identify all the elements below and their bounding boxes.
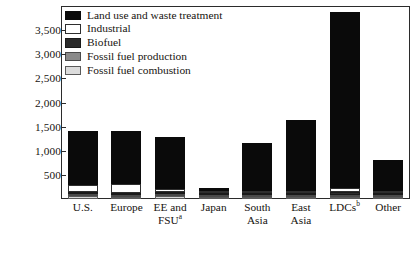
- bar-segment-ffcomb: [68, 196, 98, 199]
- x-axis-label: Other: [366, 201, 410, 214]
- fossil-fuel-combustion-swatch: [65, 66, 81, 75]
- bar-east-asia: [286, 120, 316, 199]
- legend-item-label: Biofuel: [87, 37, 121, 48]
- bar-segment-industrial: [111, 184, 141, 193]
- y-axis-tick-mark: [61, 54, 66, 55]
- bar-segment-land: [286, 120, 316, 191]
- legend-item: Land use and waste treatment: [65, 9, 222, 22]
- land-swatch: [65, 11, 81, 20]
- x-axis-labels: U.S.EuropeEE andFSUaJapanSouthAsiaEastAs…: [61, 201, 410, 253]
- bar-other: [373, 160, 403, 199]
- y-axis-tick-label: 3,500: [9, 25, 61, 36]
- bar-segment-land: [68, 131, 98, 185]
- x-axis-label: U.S.: [61, 201, 105, 214]
- biofuel-swatch: [65, 38, 81, 47]
- legend-item: Industrial: [65, 23, 222, 36]
- bar-segment-land: [155, 137, 185, 190]
- y-axis-tick-label: 1,500: [9, 121, 61, 132]
- bar-segment-land: [242, 143, 272, 191]
- bar-segment-ffcomb: [286, 197, 316, 199]
- y-axis-tick-mark: [61, 103, 66, 104]
- legend-item-label: Land use and waste treatment: [87, 10, 222, 21]
- x-axis-label: Europe: [105, 201, 149, 214]
- chart-legend: Land use and waste treatmentIndustrialBi…: [65, 9, 222, 77]
- bar-ee-and-fsu: [155, 137, 185, 199]
- y-axis-tick-label: 2,000: [9, 97, 61, 108]
- x-axis-label: EastAsia: [279, 201, 323, 228]
- y-axis-tick-mark: [61, 30, 66, 31]
- bar-segment-ffcomb: [111, 197, 141, 199]
- legend-item-label: Fossil fuel production: [87, 51, 187, 62]
- fossil-fuel-production-swatch: [65, 52, 81, 61]
- bar-japan: [199, 188, 229, 199]
- bar-segment-land: [111, 131, 141, 184]
- x-axis-label: EE andFSUa: [148, 201, 192, 228]
- x-axis-label: Japan: [192, 201, 236, 214]
- legend-item-label: Industrial: [87, 23, 131, 34]
- bar-ldcs: [330, 12, 360, 199]
- legend-item: Fossil fuel combustion: [65, 64, 222, 77]
- y-axis-tick-label: 3,000: [9, 49, 61, 60]
- y-axis-tick-mark: [61, 151, 66, 152]
- legend-item: Fossil fuel production: [65, 50, 222, 63]
- bar-segment-industrial: [68, 185, 98, 192]
- y-axis-tick-mark: [61, 175, 66, 176]
- bar-south-asia: [242, 143, 272, 199]
- stacked-bar-chart: 5001,0001,5002,0002,5003,0003,500 U.S.Eu…: [0, 0, 418, 253]
- bar-segment-land: [373, 160, 403, 191]
- bar-segment-land: [330, 12, 360, 188]
- x-axis-label: LDCsb: [323, 201, 367, 214]
- y-axis-tick-mark: [61, 127, 66, 128]
- bar-segment-ffcomb: [199, 197, 229, 199]
- bar-segment-ffcomb: [373, 197, 403, 199]
- y-axis: 5001,0001,5002,0002,5003,0003,500: [0, 0, 61, 253]
- legend-item: Biofuel: [65, 37, 222, 50]
- x-axis-label: SouthAsia: [236, 201, 280, 228]
- bar-u-s: [68, 131, 98, 199]
- y-axis-tick-label: 1,000: [9, 145, 61, 156]
- bar-segment-ffcomb: [155, 196, 185, 199]
- industrial-swatch: [65, 24, 81, 33]
- y-axis-tick-label: 2,500: [9, 73, 61, 84]
- y-axis-tick-mark: [61, 78, 66, 79]
- y-axis-tick-label: 500: [9, 169, 61, 180]
- bar-europe: [111, 131, 141, 199]
- legend-item-label: Fossil fuel combustion: [87, 65, 191, 76]
- bar-segment-ffcomb: [242, 197, 272, 199]
